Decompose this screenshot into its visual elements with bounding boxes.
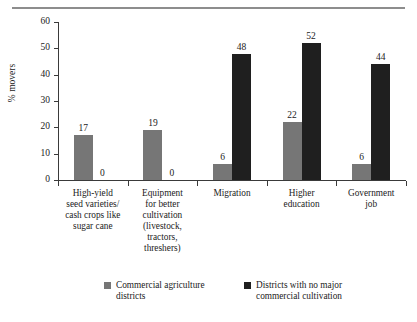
category-label-line: (livestock, [124,221,202,232]
top-horizontal-rule [12,7,405,9]
legend-entry-commercial-agriculture[interactable]: Commercial agriculture districts [104,280,234,303]
value-label-light: 6 [348,152,376,162]
legend-label-line1: Commercial agriculture [116,280,234,291]
value-label-light: 17 [69,123,97,133]
x-tick-mark [128,181,129,186]
category-label: High-yieldseed varieties/cash crops like… [54,188,132,232]
dark-swatch-icon [244,282,251,289]
y-tick-label: 10 [26,149,50,159]
y-tick-label: 0 [26,175,50,185]
category-label-line: Migration [193,188,271,199]
category-label-line: High-yield [54,188,132,199]
x-tick-mark [406,181,407,186]
y-tick-label: 20 [26,122,50,132]
legend-label-line1: Districts with no major [256,280,389,291]
value-label-dark: 0 [158,168,186,178]
bar-no-major-cultivation [371,64,390,180]
bar-commercial-agriculture [352,164,371,180]
value-label-dark: 48 [228,42,256,52]
y-tick-label: 40 [26,70,50,80]
y-axis-title: % movers [7,53,17,113]
y-tick-label: 60 [26,17,50,27]
category-label-line: sugar cane [54,221,132,232]
y-tick-label: 50 [26,43,50,53]
category-label-line: tractors, [124,232,202,243]
x-tick-mark [267,181,268,186]
value-label-light: 22 [278,110,306,120]
x-tick-mark [58,181,59,186]
category-label-line: education [263,199,341,210]
category-label-line: cultivation [124,210,202,221]
category-label: Highereducation [263,188,341,210]
category-label-line: cash crops like [54,210,132,221]
value-label-dark: 0 [88,168,116,178]
value-label-dark: 52 [297,31,325,41]
category-label-line: for better [124,199,202,210]
value-label-light: 19 [139,118,167,128]
legend-label-line2: districts [116,291,234,302]
x-tick-mark [197,181,198,186]
category-label-line: Higher [263,188,341,199]
value-label-dark: 44 [367,52,395,62]
bar-commercial-agriculture [283,122,302,180]
light-gray-swatch-icon [104,282,111,289]
legend-entry-no-major-cultivation[interactable]: Districts with no major commercial culti… [244,280,389,303]
category-label-line: job [332,199,410,210]
y-tick-label: 30 [26,96,50,106]
x-tick-mark [336,181,337,186]
category-label-line: Government [332,188,410,199]
bar-commercial-agriculture [213,164,232,180]
category-label-line: seed varieties/ [54,199,132,210]
bar-chart-figure: % movers 0102030405060 1701906482252644 … [0,0,417,322]
category-label: Migration [193,188,271,199]
x-axis-line [58,180,406,181]
category-label: Governmentjob [332,188,410,210]
legend-label-line2: commercial cultivation [256,291,389,302]
value-label-light: 6 [209,152,237,162]
category-label-line: threshers) [124,243,202,254]
category-label: Equipmentfor bettercultivation(livestock… [124,188,202,255]
category-label-line: Equipment [124,188,202,199]
